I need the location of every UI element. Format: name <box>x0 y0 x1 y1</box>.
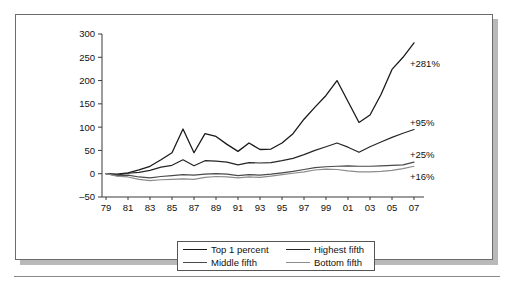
x-tick-label: 97 <box>299 202 310 213</box>
legend-item-middle-fifth: Middle fifth <box>183 257 286 268</box>
y-tick-label: 100 <box>79 122 95 133</box>
chart-axes <box>102 34 424 197</box>
y-tick-label: 250 <box>79 52 95 63</box>
x-tick-label: 07 <box>409 202 420 213</box>
x-tick-label: 79 <box>101 202 112 213</box>
legend-swatch-highest-fifth <box>286 249 310 250</box>
x-tick-label: 01 <box>343 202 354 213</box>
x-tick-label: 87 <box>189 202 200 213</box>
legend-label-highest-fifth: Highest fifth <box>314 244 364 255</box>
y-tick-label: 300 <box>79 28 95 39</box>
y-tick-label: 200 <box>79 75 95 86</box>
figure-frame: 300250200150100500–50 798183858789919395… <box>15 14 493 260</box>
page-horizontal-rule <box>14 276 500 277</box>
legend-item-bottom-fifth: Bottom fifth <box>286 257 369 268</box>
y-axis-tick-labels: 300250200150100500–50 <box>79 28 102 202</box>
chart-series-lines <box>106 43 414 181</box>
annotation-95: +95% <box>410 117 435 128</box>
chart-end-annotations: +281%+95%+25%+16% <box>410 58 440 182</box>
legend-row: Top 1 percent Highest fifth <box>183 243 369 256</box>
legend-label-top-1-percent: Top 1 percent <box>211 244 269 255</box>
legend-swatch-bottom-fifth <box>286 262 310 263</box>
x-tick-label: 93 <box>255 202 266 213</box>
y-tick-label: 0 <box>90 168 95 179</box>
legend-item-top-1-percent: Top 1 percent <box>183 244 286 255</box>
screenshot-root: 300250200150100500–50 798183858789919395… <box>0 0 514 286</box>
line-chart: 300250200150100500–50 798183858789919395… <box>16 15 494 261</box>
x-tick-label: 89 <box>211 202 222 213</box>
x-tick-label: 03 <box>365 202 376 213</box>
x-axis-tick-labels: 798183858789919395979901030507 <box>101 197 420 213</box>
y-tick-label: 50 <box>84 145 95 156</box>
series-line-top-1-percent <box>106 43 414 174</box>
legend-label-middle-fifth: Middle fifth <box>211 257 257 268</box>
x-tick-label: 83 <box>145 202 156 213</box>
annotation-281: +281% <box>410 58 440 69</box>
x-tick-label: 91 <box>233 202 244 213</box>
legend-label-bottom-fifth: Bottom fifth <box>314 257 362 268</box>
x-tick-label: 05 <box>387 202 398 213</box>
x-tick-label: 85 <box>167 202 178 213</box>
legend-row: Middle fifth Bottom fifth <box>183 256 369 269</box>
y-tick-label: 150 <box>79 98 95 109</box>
legend-item-highest-fifth: Highest fifth <box>286 244 369 255</box>
chart-legend: Top 1 percent Highest fifth Middle fifth… <box>177 241 375 271</box>
x-tick-label: 95 <box>277 202 288 213</box>
annotation-25: +25% <box>410 149 435 160</box>
x-tick-label: 81 <box>123 202 134 213</box>
legend-swatch-middle-fifth <box>183 262 207 263</box>
series-line-highest-fifth <box>106 129 414 175</box>
x-tick-label: 99 <box>321 202 332 213</box>
annotation-16: +16% <box>410 171 435 182</box>
legend-swatch-top-1-percent <box>183 249 207 250</box>
y-tick-label: –50 <box>79 191 95 202</box>
series-line-bottom-fifth <box>106 166 414 180</box>
